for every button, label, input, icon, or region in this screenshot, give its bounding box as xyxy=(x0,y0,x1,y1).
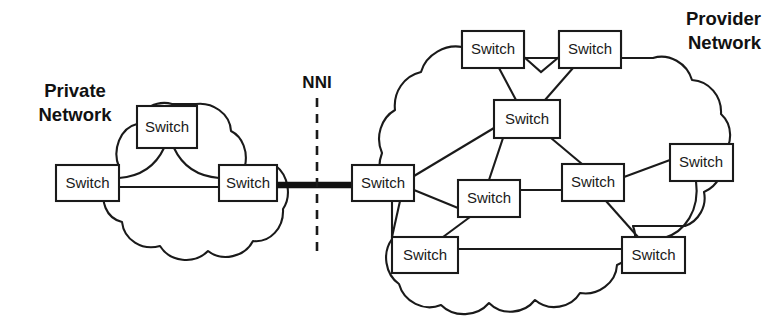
switch-label: Switch xyxy=(226,174,270,191)
provider-network-title: Provider Network xyxy=(686,8,762,53)
private-network-title-line2: Network xyxy=(39,104,113,125)
private-network-title-line1: Private xyxy=(44,80,106,101)
private-switch-right[interactable]: Switch xyxy=(219,165,277,201)
provider-switch-bottom-right[interactable]: Switch xyxy=(622,237,685,273)
provider-switch-core[interactable]: Switch xyxy=(494,100,560,138)
provider-switch-top-right[interactable]: Switch xyxy=(559,31,621,68)
switch-label: Switch xyxy=(145,118,189,135)
provider-switch-mid-left[interactable]: Switch xyxy=(458,180,520,217)
switch-label: Switch xyxy=(403,246,447,263)
provider-switch-right[interactable]: Switch xyxy=(670,144,733,181)
provider-network-title-line1: Provider xyxy=(686,8,761,29)
private-switch-left[interactable]: Switch xyxy=(56,165,119,201)
provider-switch-bottom-left[interactable]: Switch xyxy=(392,237,458,273)
switch-label: Switch xyxy=(471,40,515,57)
nni-label: NNI xyxy=(302,73,331,92)
switch-label: Switch xyxy=(467,189,511,206)
switch-label: Switch xyxy=(65,174,109,191)
switch-label: Switch xyxy=(571,173,615,190)
provider-switch-mid-right[interactable]: Switch xyxy=(562,164,624,201)
switch-label: Switch xyxy=(631,246,675,263)
switch-label: Switch xyxy=(361,174,405,191)
private-switch-top[interactable]: Switch xyxy=(137,106,197,148)
switch-label: Switch xyxy=(505,110,549,127)
diagram-canvas: Switch Switch Switch NNI xyxy=(0,0,774,324)
network-diagram: Switch Switch Switch NNI xyxy=(0,0,774,324)
private-network-title: Private Network xyxy=(39,80,113,125)
provider-switch-top-left[interactable]: Switch xyxy=(462,31,524,68)
provider-switch-edge[interactable]: Switch xyxy=(352,165,414,201)
provider-network-title-line2: Network xyxy=(688,32,762,53)
switch-label: Switch xyxy=(568,40,612,57)
switch-label: Switch xyxy=(679,153,723,170)
